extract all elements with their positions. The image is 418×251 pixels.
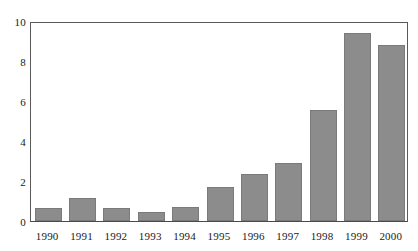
bar-2000: [378, 45, 405, 221]
bar-1994: [172, 207, 199, 221]
bar-1993: [138, 212, 165, 221]
y-axis-tick-label: 0: [0, 216, 26, 228]
x-axis-tick-label: 2000: [371, 230, 411, 243]
bar-1991: [69, 198, 96, 221]
bar-1997: [275, 163, 302, 221]
bar-1996: [241, 174, 268, 221]
bar-chart: 0246810 19901991199219931994199519961997…: [0, 0, 418, 251]
y-axis-tick-label: 4: [0, 136, 26, 148]
y-axis-tick-label: 2: [0, 176, 26, 188]
y-axis-tick-label: 8: [0, 56, 26, 68]
plot-area: [30, 22, 408, 222]
bar-1990: [35, 208, 62, 221]
y-axis-tick-label: 6: [0, 96, 26, 108]
bar-1995: [207, 187, 234, 221]
bar-1999: [344, 33, 371, 221]
y-axis-tick-label: 10: [0, 16, 26, 28]
bar-1998: [310, 110, 337, 221]
bar-1992: [103, 208, 130, 221]
